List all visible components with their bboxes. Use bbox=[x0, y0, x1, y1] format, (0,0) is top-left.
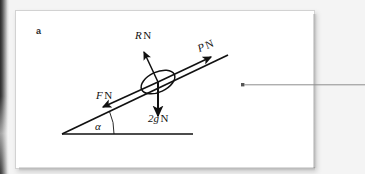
margin-rule bbox=[0, 0, 365, 174]
margin-rule-bullet bbox=[241, 83, 244, 86]
scanned-page: a RN PN FN 2gN α bbox=[0, 0, 365, 174]
